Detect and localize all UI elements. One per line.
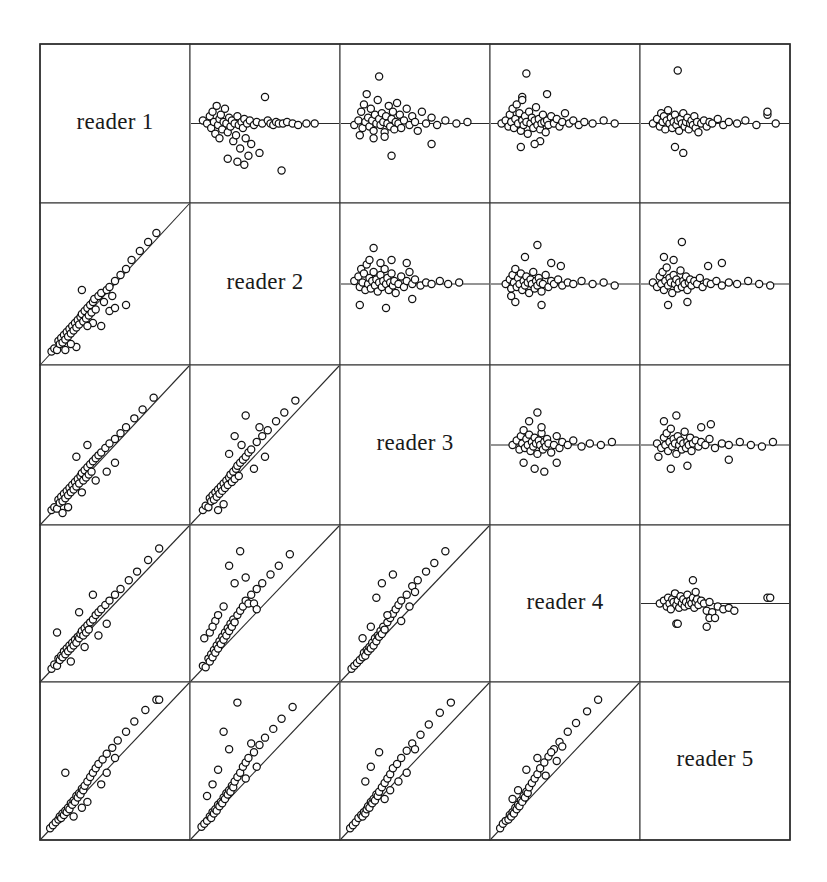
- data-point: [436, 277, 443, 284]
- data-point: [538, 424, 545, 431]
- data-point: [378, 580, 385, 587]
- data-point: [542, 772, 549, 779]
- data-point: [111, 304, 118, 311]
- data-point: [272, 418, 279, 425]
- diagonal-label-reader-1: reader 1: [76, 109, 153, 134]
- data-point: [84, 322, 91, 329]
- data-point: [250, 749, 257, 756]
- data-point: [362, 778, 369, 785]
- data-point: [231, 433, 238, 440]
- data-point: [356, 301, 363, 308]
- data-point: [711, 444, 718, 451]
- data-point: [532, 104, 539, 111]
- data-point: [370, 135, 377, 142]
- data-point: [523, 70, 530, 77]
- data-point: [409, 295, 416, 302]
- data-point: [381, 133, 388, 140]
- data-point: [711, 614, 718, 621]
- data-point: [237, 145, 244, 152]
- data-point: [557, 262, 564, 269]
- data-point: [667, 465, 674, 472]
- data-point: [411, 118, 418, 125]
- data-point: [220, 603, 227, 610]
- data-point: [517, 143, 524, 150]
- data-point: [747, 441, 754, 448]
- data-point: [600, 117, 607, 124]
- data-point: [572, 719, 579, 726]
- data-point: [111, 591, 118, 598]
- data-point: [692, 588, 699, 595]
- data-point: [542, 271, 549, 278]
- data-point: [718, 440, 725, 447]
- data-point: [278, 715, 285, 722]
- data-point: [678, 238, 685, 245]
- data-point: [220, 501, 227, 508]
- data-point: [422, 120, 429, 127]
- data-point: [111, 754, 118, 761]
- data-point: [85, 626, 92, 633]
- data-point: [109, 292, 116, 299]
- data-point: [224, 155, 231, 162]
- data-point: [393, 99, 400, 106]
- data-point: [216, 135, 223, 142]
- data-point: [767, 594, 774, 601]
- data-point: [231, 580, 238, 587]
- data-point: [509, 795, 516, 802]
- data-point: [655, 453, 662, 460]
- data-point: [117, 271, 124, 278]
- data-point: [772, 120, 779, 127]
- data-point: [689, 577, 696, 584]
- data-point: [548, 449, 555, 456]
- data-point: [106, 283, 113, 290]
- data-point: [526, 418, 533, 425]
- data-point: [667, 425, 674, 432]
- data-point: [688, 447, 695, 454]
- data-point: [242, 412, 249, 419]
- data-point: [758, 443, 765, 450]
- data-point: [464, 118, 471, 125]
- data-point: [214, 766, 221, 773]
- data-point: [414, 127, 421, 134]
- data-point: [106, 597, 113, 604]
- data-point: [150, 394, 157, 401]
- data-point: [660, 418, 667, 425]
- data-point: [583, 708, 590, 715]
- data-point: [403, 747, 410, 754]
- data-point: [245, 152, 252, 159]
- data-point: [78, 286, 85, 293]
- data-point: [521, 253, 528, 260]
- data-point: [718, 282, 725, 289]
- data-point: [235, 472, 242, 479]
- data-point: [89, 591, 96, 598]
- data-point: [226, 746, 233, 753]
- diagonal-label-reader-3: reader 3: [376, 430, 453, 455]
- data-point: [745, 277, 752, 284]
- data-point: [433, 121, 440, 128]
- data-point: [232, 132, 239, 139]
- data-point: [62, 769, 69, 776]
- data-point: [78, 489, 85, 496]
- data-point: [725, 456, 732, 463]
- data-point: [214, 612, 221, 619]
- data-point: [417, 731, 424, 738]
- data-point: [92, 477, 99, 484]
- data-point: [366, 256, 373, 263]
- data-point: [122, 728, 129, 735]
- data-point: [389, 108, 396, 115]
- data-point: [538, 288, 545, 295]
- data-point: [403, 591, 410, 598]
- data-point: [100, 298, 107, 305]
- data-point: [742, 117, 749, 124]
- data-point: [376, 749, 383, 756]
- data-point: [725, 441, 732, 448]
- data-point: [363, 91, 370, 98]
- data-point: [114, 737, 121, 744]
- data-point: [411, 588, 418, 595]
- data-point: [226, 450, 233, 457]
- data-point: [442, 117, 449, 124]
- data-point: [595, 696, 602, 703]
- data-point: [445, 280, 452, 287]
- data-point: [456, 279, 463, 286]
- data-point: [395, 778, 402, 785]
- data-point: [256, 424, 263, 431]
